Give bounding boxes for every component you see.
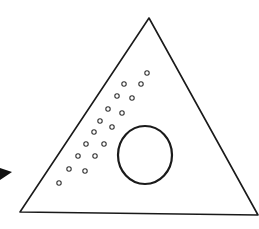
small-circle: [139, 82, 143, 86]
small-circle: [84, 142, 88, 146]
triangle-shape: [20, 18, 258, 215]
small-circle: [106, 107, 110, 111]
small-circle: [122, 82, 126, 86]
small-circle: [93, 154, 97, 158]
small-circle: [76, 154, 80, 158]
small-circle: [57, 181, 61, 185]
small-circle: [120, 111, 124, 115]
arrow-tip-icon: [0, 168, 12, 180]
small-circle: [98, 119, 102, 123]
small-circle: [115, 94, 119, 98]
small-circle: [67, 167, 71, 171]
small-circle: [145, 71, 149, 75]
large-circle: [118, 126, 172, 184]
small-circle: [130, 96, 134, 100]
small-circle: [83, 169, 87, 173]
small-circle: [92, 130, 96, 134]
small-circle: [110, 125, 114, 129]
diagram-canvas: [0, 0, 259, 229]
small-circle: [102, 142, 106, 146]
